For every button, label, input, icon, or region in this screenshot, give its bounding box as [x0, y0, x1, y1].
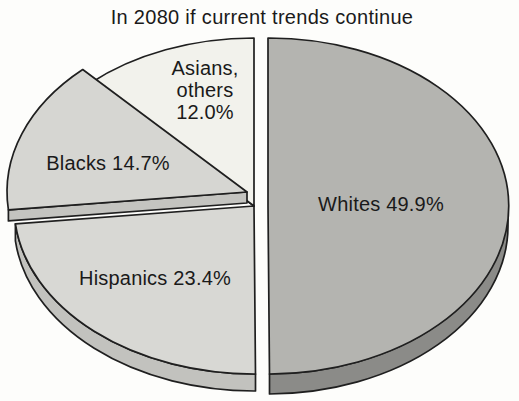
slice-label-whites: Whites 49.9%: [318, 193, 444, 215]
slice-label-asians-line3: 12.0%: [176, 101, 234, 123]
chart-title: In 2080 if current trends continue: [111, 6, 414, 28]
pie-slice-hispanics-top: [15, 206, 255, 374]
slice-label-asians-line2: others: [177, 79, 234, 101]
pie-chart-figure: In 2080 if current trends continue White…: [0, 0, 519, 401]
pie-slices-group: [7, 38, 509, 394]
slice-label-asians-line1: Asians,: [172, 57, 239, 79]
slice-label-hispanics: Hispanics 23.4%: [79, 267, 231, 289]
slice-label-blacks: Blacks 14.7%: [46, 152, 170, 174]
pie-chart-canvas: In 2080 if current trends continue White…: [0, 0, 519, 401]
